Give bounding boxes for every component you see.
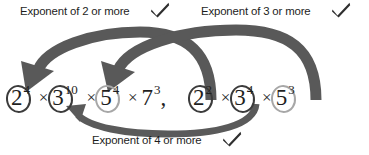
base-left-2: 5 <box>99 86 113 109</box>
base-right-2: 5 <box>275 86 289 109</box>
operator-times: × <box>84 89 100 106</box>
base-right-1: 3 <box>233 86 247 109</box>
operator-times: × <box>218 89 234 106</box>
base-right-1-value: 3 <box>234 85 246 110</box>
arrow-layer <box>0 0 369 155</box>
base-left-3: 7 <box>141 86 155 109</box>
term-left-1: 310 <box>51 86 78 109</box>
term-right-1: 34 <box>233 86 253 109</box>
term-right-2: 53 <box>275 86 295 109</box>
base-left-0-value: 2 <box>11 85 23 110</box>
term-left-2: 54 <box>99 86 119 109</box>
operator-times: × <box>259 89 275 106</box>
annotation-exponent-4-label: Exponent of 4 or more <box>92 135 202 146</box>
base-right-0: 2 <box>192 86 206 109</box>
term-left-0: 24 <box>10 86 30 109</box>
base-right-2-value: 5 <box>276 85 288 110</box>
annotation-exponent-3-label: Exponent of 3 or more <box>201 6 311 17</box>
base-left-1: 3 <box>51 86 65 109</box>
exponent-left-3: 3 <box>154 82 161 97</box>
exponent-left-0: 4 <box>24 82 31 97</box>
check-icon <box>150 2 170 18</box>
base-left-2-value: 5 <box>100 85 112 110</box>
exponent-right-1: 4 <box>247 82 254 97</box>
exponent-left-2: 4 <box>113 82 120 97</box>
diagram-canvas: Exponent of 2 or more Exponent of 3 or m… <box>0 0 369 155</box>
check-icon <box>331 2 351 18</box>
expression-separator: , <box>161 86 171 109</box>
annotation-exponent-2-label: Exponent of 2 or more <box>20 6 130 17</box>
term-right-0: 22 <box>192 86 212 109</box>
base-left-1-value: 3 <box>52 85 64 110</box>
exponent-left-1: 10 <box>65 82 78 97</box>
base-right-0-value: 2 <box>193 85 205 110</box>
operator-times: × <box>125 89 141 106</box>
operator-times: × <box>36 89 52 106</box>
base-left-0: 2 <box>10 86 24 109</box>
exponent-right-0: 2 <box>206 82 213 97</box>
expression-left: 24 ×310 ×54 ×73, <box>10 86 170 109</box>
expression-right: 22 ×34 ×53 <box>192 86 295 109</box>
term-left-3: 73 <box>141 86 161 109</box>
exponent-right-2: 3 <box>288 82 295 97</box>
base-left-3-value: 7 <box>142 85 154 110</box>
check-icon <box>222 131 242 147</box>
